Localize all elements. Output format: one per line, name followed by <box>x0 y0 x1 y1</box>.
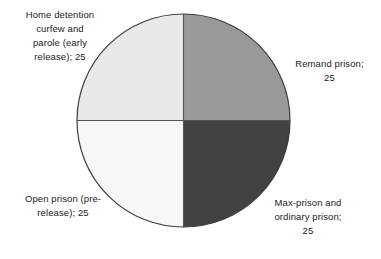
pie-label-open-prison: Open prison (pre- release); 25 <box>4 192 122 220</box>
pie-label-max-prison: Max-prison and ordinary prison; 25 <box>250 196 366 238</box>
pie-chart-figure: Home detention curfew and parole (early … <box>0 0 381 259</box>
pie-label-home-detention: Home detention curfew and parole (early … <box>6 8 114 64</box>
pie-slice-remand-prison[interactable] <box>184 14 291 121</box>
pie-label-remand-prison: Remand prison; 25 <box>280 57 379 85</box>
